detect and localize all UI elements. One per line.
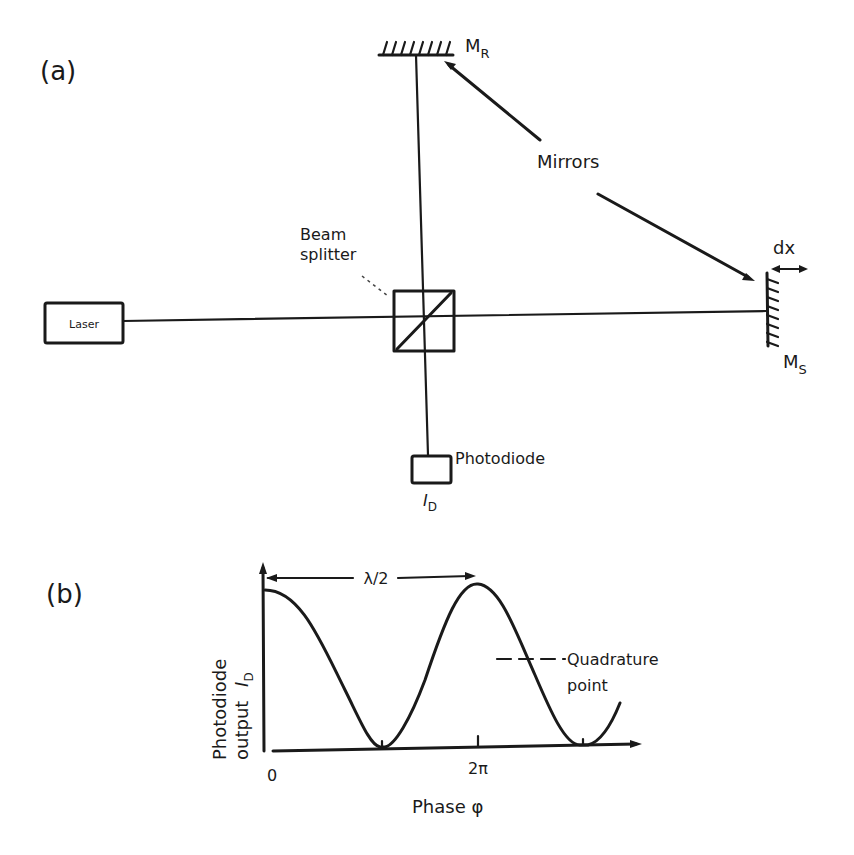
- panel-b-label: (b): [46, 579, 83, 609]
- y-axis-label: Photodiode output ID: [209, 659, 256, 760]
- x-tick-0: 0: [267, 766, 277, 785]
- mirrors-callout-arrow-to-signal: [598, 194, 755, 281]
- laser: Laser: [45, 303, 123, 343]
- beam-horizontal: [123, 311, 766, 321]
- signal-mirror-subscript: S: [799, 362, 807, 377]
- photodiode-label: Photodiode: [455, 449, 545, 468]
- beam-splitter-label-line2: splitter: [300, 245, 357, 264]
- mirrors-callout-arrow-to-reference: [444, 61, 540, 140]
- reference-mirror-label: MR: [465, 35, 490, 61]
- x-tick-2pi: 2π: [468, 759, 488, 778]
- signal-mirror-label: MS: [783, 351, 807, 377]
- panel-b: (b) 0 2π Phase φ Photodiode output ID: [46, 562, 659, 817]
- photodiode-current-label: ID: [423, 491, 437, 514]
- displacement-arrow: [771, 265, 808, 273]
- beam-vertical: [416, 55, 428, 455]
- mirrors-callout-label: Mirrors: [537, 151, 599, 172]
- reference-mirror-subscript: R: [481, 46, 490, 61]
- panel-a-label: (a): [40, 56, 76, 86]
- svg-text:Photodiode: Photodiode: [209, 659, 230, 760]
- signal-mirror: [767, 273, 778, 346]
- photodiode: [412, 456, 451, 483]
- reference-mirror: [379, 42, 453, 55]
- photodiode-current-subscript: D: [428, 500, 437, 514]
- beam-splitter-label-line1: Beam: [300, 225, 346, 244]
- displacement-label: dx: [773, 237, 795, 258]
- quadrature-label-line1: Quadrature: [567, 650, 659, 669]
- laser-label: Laser: [69, 318, 99, 331]
- svg-text:output ID: output ID: [231, 672, 256, 760]
- period-label: λ/2: [363, 569, 388, 588]
- beam-splitter-leader: [362, 276, 388, 296]
- michelson-interferometer-figure: (a) Laser Beam splitter: [0, 0, 854, 855]
- panel-a: (a) Laser Beam splitter: [40, 35, 808, 514]
- x-axis-label: Phase φ: [412, 796, 483, 817]
- quadrature-label-line2: point: [567, 676, 608, 695]
